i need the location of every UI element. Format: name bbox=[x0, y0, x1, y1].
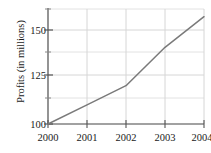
x-tick-label-2000: 2000 bbox=[31, 133, 65, 144]
x-tick-label-2003: 2003 bbox=[148, 133, 182, 144]
x-axis-tick-labels: 2000 2001 2002 2003 2004 bbox=[0, 0, 211, 153]
line-chart: Profits (in millions) 150 125 100 bbox=[0, 0, 211, 153]
x-tick-label-2002: 2002 bbox=[109, 133, 143, 144]
x-tick-label-2004: 2004 bbox=[185, 133, 211, 144]
x-tick-label-2001: 2001 bbox=[70, 133, 104, 144]
